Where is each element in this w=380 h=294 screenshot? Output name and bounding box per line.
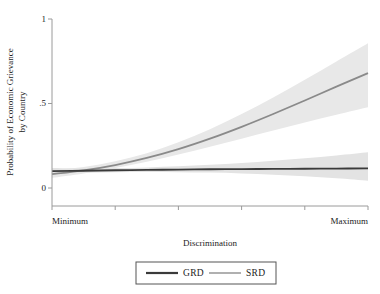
- legend-label-srd: SRD: [246, 268, 265, 278]
- x-tick-label-maximum: Maximum: [331, 216, 369, 226]
- chart-legend: GRD SRD: [136, 262, 276, 284]
- confidence-bands: [52, 43, 368, 180]
- economic-grievance-line-chart: 1 .5 0 Minimum Maximum Discrimination Pr…: [0, 0, 380, 294]
- y-tick-label-1: 1: [42, 14, 47, 24]
- x-tick-label-minimum: Minimum: [52, 216, 88, 226]
- y-axis-ticks: [48, 19, 52, 188]
- x-axis-ticks: [52, 206, 368, 210]
- x-axis-title: Discrimination: [183, 238, 237, 248]
- y-tick-label-half: .5: [39, 98, 46, 108]
- legend-label-grd: GRD: [183, 268, 204, 278]
- y-axis-title-line2: by Country: [17, 91, 27, 132]
- chart-figure: 1 .5 0 Minimum Maximum Discrimination Pr…: [0, 0, 380, 294]
- y-axis-title-line1: Probability of Economic Grievance: [5, 48, 15, 176]
- y-tick-label-0: 0: [42, 183, 47, 193]
